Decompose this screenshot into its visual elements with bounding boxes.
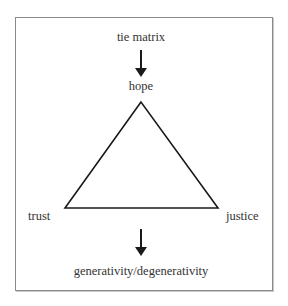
arrow-down-icon <box>135 229 147 256</box>
label-trust: trust <box>28 210 50 223</box>
diagram-graphics <box>0 0 288 306</box>
triangle-shape <box>65 102 218 208</box>
label-justice: justice <box>226 210 259 223</box>
arrow-down-icon <box>135 50 147 77</box>
label-tie-matrix: tie matrix <box>117 31 165 44</box>
label-generativity-degenerativity: generativity/degenerativity <box>74 265 209 278</box>
label-hope: hope <box>129 80 153 93</box>
